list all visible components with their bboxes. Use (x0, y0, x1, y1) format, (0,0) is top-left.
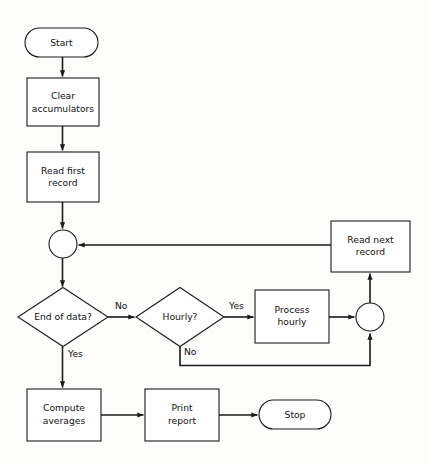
node-hourly[interactable]: Hourly? (136, 288, 224, 347)
node-process-hourly[interactable]: Process hourly (255, 290, 329, 343)
node-process-hourly-label-line2: hourly (277, 316, 307, 327)
branch-label-yes-end-of-data: Yes (67, 348, 83, 359)
node-compute-averages[interactable]: Compute averages (27, 389, 101, 441)
node-compute-averages-label-line2: averages (43, 415, 86, 426)
node-read-next-record-label-line1: Read next (347, 234, 394, 245)
node-print-report-label-line2: report (168, 415, 196, 426)
node-stop[interactable]: Stop (259, 400, 331, 429)
node-read-next-record-label-line2: record (356, 246, 385, 257)
node-read-first-record[interactable]: Read first record (27, 152, 99, 202)
flowchart-canvas: Start Clear accumulators Read first reco… (0, 0, 428, 463)
node-stop-label: Stop (285, 409, 306, 420)
node-left-connector[interactable] (49, 230, 77, 258)
node-clear-accumulators-label-line2: accumulators (32, 103, 95, 114)
flowchart-diagram: Start Clear accumulators Read first reco… (0, 0, 428, 463)
node-hourly-label: Hourly? (163, 311, 198, 322)
branch-label-no-hourly: No (184, 346, 197, 357)
edge-layer (63, 57, 371, 415)
node-layer: Start Clear accumulators Read first reco… (18, 28, 410, 441)
node-read-first-record-label-line2: record (48, 177, 77, 188)
node-compute-averages-label-line1: Compute (43, 402, 85, 413)
node-print-report-label-line1: Print (171, 402, 193, 413)
node-process-hourly-label-line1: Process (275, 304, 310, 315)
node-clear-accumulators-label-line1: Clear (51, 90, 75, 101)
node-read-first-record-label-line1: Read first (41, 165, 85, 176)
node-start-label: Start (50, 37, 73, 48)
node-start[interactable]: Start (25, 28, 98, 57)
branch-label-no-end-of-data: No (115, 300, 128, 311)
node-end-of-data-label: End of data? (34, 311, 92, 322)
node-print-report[interactable]: Print report (145, 389, 219, 441)
node-end-of-data[interactable]: End of data? (18, 288, 108, 347)
node-clear-accumulators[interactable]: Clear accumulators (27, 78, 99, 126)
node-right-connector[interactable] (356, 303, 384, 331)
branch-label-yes-hourly: Yes (228, 300, 244, 311)
node-read-next-record[interactable]: Read next record (331, 221, 410, 272)
